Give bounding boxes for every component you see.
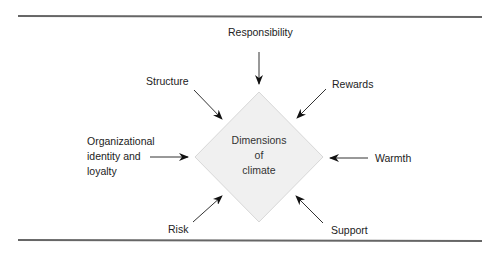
center-label: Dimensions of climate	[219, 133, 299, 178]
org-line-3: loyalty	[87, 164, 167, 179]
label-risk: Risk	[168, 222, 188, 237]
center-line-3: climate	[219, 163, 299, 178]
center-line-2: of	[219, 148, 299, 163]
org-line-1: Organizational	[87, 134, 167, 149]
label-structure: Structure	[146, 74, 189, 89]
bottom-rule	[18, 240, 482, 241]
center-line-1: Dimensions	[219, 133, 299, 148]
arrow-rewards	[297, 89, 326, 118]
label-rewards: Rewards	[332, 77, 373, 92]
org-line-2: identity and	[87, 149, 167, 164]
label-warmth: Warmth	[375, 151, 411, 166]
label-responsibility: Responsibility	[228, 25, 293, 40]
arrow-structure	[194, 90, 222, 119]
arrow-risk	[193, 196, 222, 222]
label-organizational-identity: Organizational identity and loyalty	[87, 134, 167, 179]
label-support: Support	[331, 223, 368, 238]
arrow-support	[296, 196, 323, 223]
top-rule	[18, 16, 482, 17]
